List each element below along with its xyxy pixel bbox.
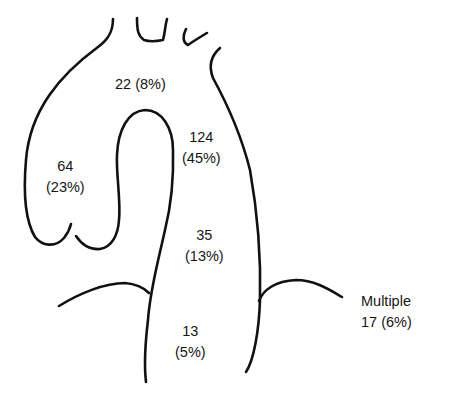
label-aortic-arch: 22 (8%) bbox=[115, 74, 166, 95]
right-branch bbox=[259, 280, 342, 301]
label-ascending-aorta: 64 (23%) bbox=[46, 156, 85, 198]
outer-right-wall bbox=[211, 48, 260, 372]
aorta-outline bbox=[0, 0, 457, 400]
outer-left-wall bbox=[25, 19, 113, 245]
distal-descending-percent: (5%) bbox=[175, 342, 206, 363]
label-mid-descending: 35 (13%) bbox=[185, 225, 224, 267]
inner-wall bbox=[76, 110, 173, 382]
mid-descending-count: 35 bbox=[185, 225, 224, 246]
mid-descending-percent: (13%) bbox=[185, 246, 224, 267]
aortic-arch-value: 22 (8%) bbox=[115, 74, 166, 95]
label-proximal-descending: 124 (45%) bbox=[182, 127, 221, 169]
multiple-label: Multiple bbox=[361, 291, 412, 312]
label-multiple: Multiple 17 (6%) bbox=[361, 291, 412, 333]
left-subclavian-branch bbox=[184, 29, 207, 45]
ascending-aorta-count: 64 bbox=[46, 156, 85, 177]
proximal-descending-percent: (45%) bbox=[182, 148, 221, 169]
left-branch bbox=[59, 283, 149, 306]
multiple-value: 17 (6%) bbox=[361, 312, 412, 333]
label-distal-descending: 13 (5%) bbox=[175, 321, 206, 363]
ascending-aorta-percent: (23%) bbox=[46, 177, 85, 198]
left-carotid-branch bbox=[137, 18, 167, 41]
proximal-descending-count: 124 bbox=[182, 127, 221, 148]
distal-descending-count: 13 bbox=[175, 321, 206, 342]
